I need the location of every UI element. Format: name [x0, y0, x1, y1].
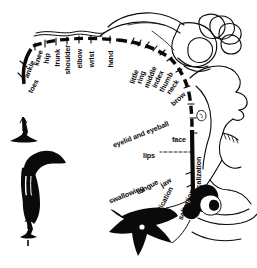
label-wrist: wrist — [88, 51, 95, 67]
homunculus-leg-figure — [10, 117, 66, 246]
homunculus-tongue-figure — [109, 207, 178, 256]
face-profile-group — [190, 66, 257, 241]
label-face: face — [172, 136, 186, 143]
label-lips: lips — [143, 152, 155, 159]
label-shoulder: shoulder — [64, 45, 71, 75]
label-hand: hand — [107, 51, 114, 68]
label-trunk: trunk — [53, 49, 61, 67]
label-hip: hip — [42, 53, 51, 64]
label-vocalization: vocalization — [195, 157, 202, 197]
label-elbow: elbow — [76, 49, 83, 69]
motor-homunculus-figure: toesanklekneehiptrunkshoulderelbowwristh… — [0, 0, 257, 268]
